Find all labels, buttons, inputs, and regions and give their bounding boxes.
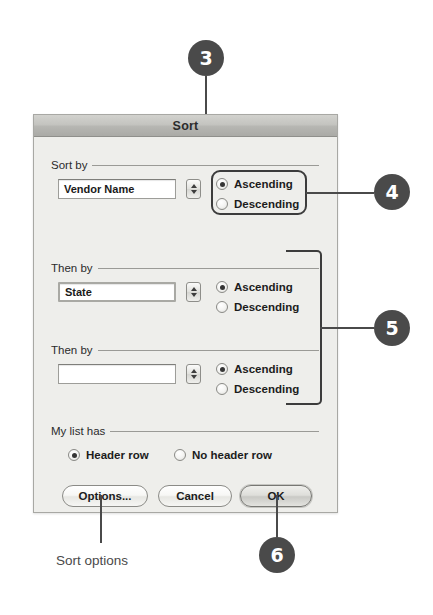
then-by-1-ascending-radio[interactable] <box>216 281 228 293</box>
then-by-2-descending-row[interactable]: Descending <box>216 383 299 395</box>
then-by-1-descending-label: Descending <box>234 301 299 313</box>
sort-by-descending-radio[interactable] <box>216 198 228 210</box>
chevron-up-icon <box>191 184 197 188</box>
callout-6: 6 <box>259 537 295 573</box>
sort-options-caption-leader <box>100 495 102 543</box>
then-by-2-descending-label: Descending <box>234 383 299 395</box>
header-row-label: Header row <box>86 449 149 461</box>
dialog-titlebar: Sort <box>34 115 337 137</box>
then-by-2-group-label: Then by <box>51 344 319 356</box>
sort-by-group-label: Sort by <box>51 159 319 171</box>
callout-5-number: 5 <box>385 317 398 339</box>
no-header-row-label: No header row <box>192 449 272 461</box>
sort-by-label: Sort by <box>51 159 92 171</box>
then-by-2-ascending-row[interactable]: Ascending <box>216 363 293 375</box>
sort-by-ascending-row[interactable]: Ascending <box>216 178 293 190</box>
then-by-2-ascending-label: Ascending <box>234 363 293 375</box>
dialog-title: Sort <box>173 119 199 133</box>
callout-5-leader <box>320 327 374 329</box>
sort-dialog-window: Sort Sort by Vendor Name Ascending Desce… <box>33 114 338 513</box>
callout-4: 4 <box>374 174 410 210</box>
callout-4-number: 4 <box>385 181 398 203</box>
then-by-1-ascending-row[interactable]: Ascending <box>216 281 293 293</box>
then-by-1-group-label: Then by <box>51 262 319 274</box>
callout-3-number: 3 <box>199 47 212 69</box>
then-by-1-rule <box>98 268 319 269</box>
chevron-up-icon <box>191 287 197 291</box>
my-list-has-label: My list has <box>51 425 110 437</box>
sort-by-field[interactable]: Vendor Name <box>58 179 176 199</box>
no-header-row-option[interactable]: No header row <box>174 449 272 461</box>
then-by-1-field-value: State <box>65 286 92 298</box>
no-header-row-radio[interactable] <box>174 449 186 461</box>
then-by-1-field[interactable]: State <box>58 282 176 302</box>
then-by-1-descending-row[interactable]: Descending <box>216 301 299 313</box>
callout-5: 5 <box>374 310 410 346</box>
then-by-2-descending-radio[interactable] <box>216 383 228 395</box>
callout-6-number: 6 <box>270 544 283 566</box>
options-button[interactable]: Options... <box>62 485 148 507</box>
sort-by-ascending-label: Ascending <box>234 178 293 190</box>
then-by-2-ascending-radio[interactable] <box>216 363 228 375</box>
then-by-1-descending-radio[interactable] <box>216 301 228 313</box>
callout-4-leader <box>306 192 374 194</box>
then-by-2-field[interactable] <box>58 364 176 384</box>
then-by-1-stepper[interactable] <box>186 282 201 302</box>
then-by-2-stepper[interactable] <box>186 364 201 384</box>
callout-3: 3 <box>188 40 224 76</box>
sort-options-caption: Sort options <box>56 553 128 568</box>
then-by-1-label: Then by <box>51 262 98 274</box>
callout-6-leader <box>276 495 278 537</box>
my-list-has-rule <box>110 431 319 432</box>
chevron-up-icon <box>191 369 197 373</box>
sort-by-descending-row[interactable]: Descending <box>216 198 299 210</box>
dialog-body: Sort by Vendor Name Ascending Descending… <box>34 137 337 512</box>
options-button-label: Options... <box>78 490 131 502</box>
chevron-down-icon <box>191 375 197 379</box>
sort-by-stepper[interactable] <box>186 179 201 199</box>
sort-by-rule <box>92 165 319 166</box>
header-row-radio[interactable] <box>68 449 80 461</box>
sort-by-field-value: Vendor Name <box>64 183 134 195</box>
then-by-2-rule <box>98 350 319 351</box>
cancel-button[interactable]: Cancel <box>158 485 232 507</box>
sort-by-ascending-radio[interactable] <box>216 178 228 190</box>
header-row-option[interactable]: Header row <box>68 449 149 461</box>
cancel-button-label: Cancel <box>176 490 214 502</box>
sort-by-descending-label: Descending <box>234 198 299 210</box>
then-by-1-ascending-label: Ascending <box>234 281 293 293</box>
chevron-down-icon <box>191 293 197 297</box>
then-by-2-label: Then by <box>51 344 98 356</box>
my-list-has-group-label: My list has <box>51 425 319 437</box>
chevron-down-icon <box>191 190 197 194</box>
